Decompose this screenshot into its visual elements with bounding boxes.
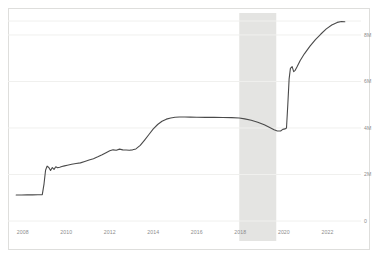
recession-shading-group [239,13,276,241]
recession-band [239,13,276,241]
x-axis-tick-2022: 2022 [321,229,333,235]
data-line-group [16,21,345,194]
x-axis-tick-2014: 2014 [147,229,159,235]
chart-canvas [0,0,379,259]
x-axis-tick-2008: 2008 [17,229,29,235]
x-axis-tick-2010: 2010 [60,229,72,235]
gridlines-group [8,21,361,221]
x-axis-tick-2016: 2016 [191,229,203,235]
y-axis-tick-4M: 4M [364,125,371,131]
x-axis-tick-2012: 2012 [104,229,116,235]
data-line-series-1 [16,21,345,194]
y-axis-tick-2M: 2M [364,171,371,177]
y-axis-tick-8M: 8M [364,32,371,38]
x-axis-tick-2020: 2020 [278,229,290,235]
y-axis-tick-6M: 6M [364,78,371,84]
y-axis-tick-0: 0 [364,218,367,224]
line-chart: 20082010201220142016201820202022 02M4M6M… [0,0,379,259]
x-axis-tick-2018: 2018 [234,229,246,235]
